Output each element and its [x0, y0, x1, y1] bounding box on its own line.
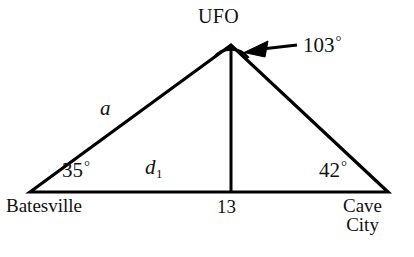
right-angle-label: 42°: [319, 159, 347, 182]
left-angle-value: 35: [62, 158, 83, 182]
base-side-subscript: 1: [156, 166, 163, 181]
base-side-label: d1: [145, 157, 163, 180]
right-angle-value: 42: [319, 158, 340, 182]
ufo-triangle-figure: UFO 103° a 35° d1 42° Batesville 13 Cave…: [0, 0, 414, 257]
degree-icon: °: [336, 33, 342, 49]
degree-icon: °: [84, 158, 90, 174]
apex-vertex-label: UFO: [198, 6, 239, 26]
angle-arrow-head: [244, 41, 268, 57]
base-side-letter: d: [145, 155, 156, 179]
apex-angle-label: 103°: [303, 34, 342, 57]
right-vertex-line1: Cave: [343, 196, 382, 215]
apex-angle-value: 103: [303, 33, 335, 57]
left-angle-label: 35°: [62, 159, 90, 182]
degree-icon: °: [341, 158, 347, 174]
right-vertex-line2: City: [343, 215, 382, 234]
left-vertex-label: Batesville: [6, 196, 82, 215]
right-vertex-label: CaveCity: [343, 196, 382, 235]
altitude-length-label: 13: [217, 197, 236, 216]
side-a-label: a: [100, 98, 111, 119]
